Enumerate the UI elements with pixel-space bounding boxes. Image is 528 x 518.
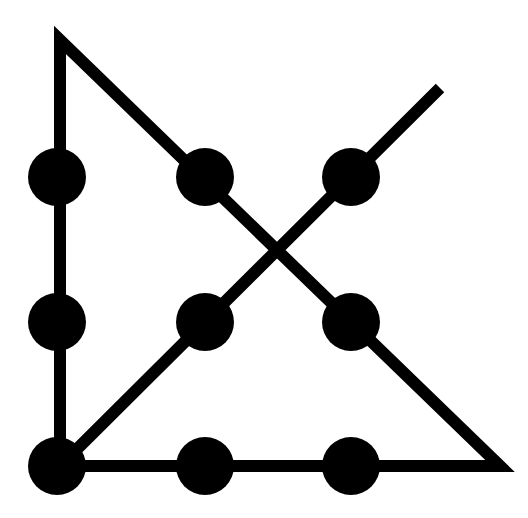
dot-2 — [176, 148, 234, 206]
dot-3 — [322, 148, 380, 206]
dot-1 — [28, 148, 86, 206]
dot-9 — [322, 437, 380, 495]
nine-dots-diagram — [0, 0, 528, 518]
dot-7 — [28, 437, 86, 495]
dot-5 — [176, 293, 234, 351]
dot-6 — [322, 293, 380, 351]
dot-8 — [176, 437, 234, 495]
dot-4 — [28, 293, 86, 351]
